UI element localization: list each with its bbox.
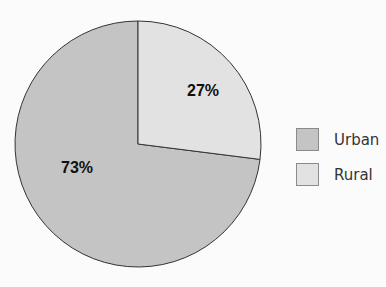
legend-item-urban[interactable]: Urban xyxy=(296,122,379,157)
legend-swatch-rural xyxy=(296,163,319,186)
legend-swatch-urban xyxy=(296,128,319,151)
legend: Urban Rural xyxy=(296,122,379,192)
legend-label-rural: Rural xyxy=(334,166,373,184)
slice-label-rural: 27% xyxy=(187,82,219,99)
slice-label-urban: 73% xyxy=(61,159,93,176)
legend-item-rural[interactable]: Rural xyxy=(296,157,379,192)
legend-label-urban: Urban xyxy=(334,131,379,149)
